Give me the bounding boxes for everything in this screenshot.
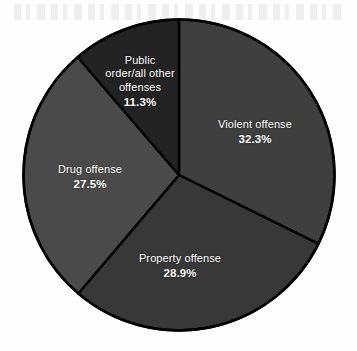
pie-slices — [23, 19, 334, 330]
pie-chart-svg — [0, 0, 357, 351]
chart-canvas: Public order/all other offenses 11.3% Vi… — [0, 0, 357, 351]
pie-chart: Public order/all other offenses 11.3% Vi… — [0, 0, 357, 351]
